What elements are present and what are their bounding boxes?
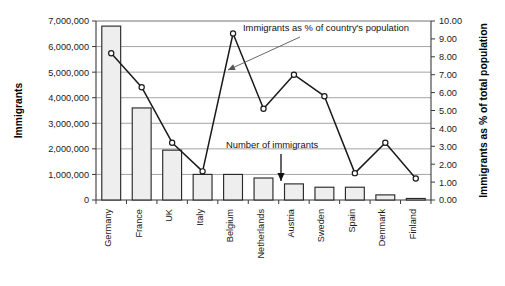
- x-axis-label-finland: Finland: [408, 209, 418, 239]
- bar-denmark: [376, 195, 395, 200]
- bar-sweden: [315, 187, 334, 200]
- x-axis-label-austria: Austria: [286, 208, 296, 237]
- y-tick-label-left: 5,000,000: [48, 68, 89, 78]
- bar-uk: [163, 150, 182, 200]
- bar-italy: [193, 174, 212, 200]
- x-axis-label-france: France: [134, 209, 144, 238]
- y-tick-label-left: 6,000,000: [48, 42, 89, 52]
- x-axis-label-uk: UK: [164, 208, 174, 222]
- y-tick-label-left: 7,000,000: [48, 16, 89, 26]
- line-marker-netherlands: [261, 106, 266, 111]
- line-marker-spain: [352, 171, 357, 176]
- bar-belgium: [224, 174, 243, 200]
- y-tick-label-right: 4.00: [439, 124, 457, 134]
- x-axis-label-germany: Germany: [103, 209, 113, 247]
- line-marker-france: [139, 85, 144, 90]
- y-axis-title-right: Immigrants as % of total population: [478, 23, 489, 197]
- line-series-annotation-leader: [228, 37, 300, 70]
- x-axis-label-denmark: Denmark: [377, 209, 387, 247]
- line-marker-sweden: [322, 94, 327, 99]
- chart-container: 01,000,0002,000,0003,000,0004,000,0005,0…: [0, 0, 505, 286]
- y-tick-label-left: 4,000,000: [48, 93, 89, 103]
- x-axis-label-sweden: Sweden: [316, 209, 326, 242]
- bar-finland: [406, 198, 425, 200]
- bar-austria: [285, 184, 304, 200]
- immigrants-combo-chart: 01,000,0002,000,0003,000,0004,000,0005,0…: [0, 0, 505, 286]
- x-axis-label-italy: Italy: [195, 209, 205, 226]
- line-series-annotation-text: Immigrants as % of country's population: [243, 22, 409, 33]
- y-axis-title-left: Immigrants: [13, 82, 24, 138]
- line-marker-uk: [170, 140, 175, 145]
- bar-spain: [345, 187, 364, 200]
- y-tick-label-right: 0.00: [439, 195, 457, 205]
- bar-series-annotation-text: Number of immigrants: [226, 139, 319, 150]
- line-marker-denmark: [383, 140, 388, 145]
- x-axis-label-belgium: Belgium: [225, 209, 235, 243]
- y-tick-label-right: 2.00: [439, 160, 457, 170]
- bar-series-annotation-arrowhead: [277, 173, 284, 181]
- y-tick-label-right: 10.00: [439, 16, 462, 26]
- line-marker-belgium: [230, 31, 235, 36]
- y-tick-label-left: 2,000,000: [48, 144, 89, 154]
- bar-france: [132, 108, 151, 200]
- y-tick-label-right: 1.00: [439, 178, 457, 188]
- line-marker-italy: [200, 169, 205, 174]
- y-tick-label-left: 0: [84, 195, 89, 205]
- y-tick-label-right: 3.00: [439, 142, 457, 152]
- line-marker-germany: [109, 51, 114, 56]
- y-tick-label-right: 8.00: [439, 52, 457, 62]
- x-axis-label-spain: Spain: [347, 209, 357, 233]
- y-tick-label-left: 1,000,000: [48, 170, 89, 180]
- x-axis-label-netherlands: Netherlands: [256, 209, 266, 259]
- y-tick-label-left: 3,000,000: [48, 119, 89, 129]
- y-tick-label-right: 6.00: [439, 88, 457, 98]
- y-tick-label-right: 5.00: [439, 106, 457, 116]
- bar-netherlands: [254, 178, 273, 200]
- y-tick-label-right: 9.00: [439, 34, 457, 44]
- line-marker-finland: [413, 176, 418, 181]
- y-tick-label-right: 7.00: [439, 70, 457, 80]
- line-marker-austria: [291, 72, 296, 77]
